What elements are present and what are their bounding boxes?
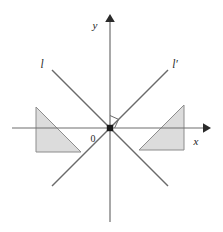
line-l-prime-label: l′ <box>172 58 178 70</box>
x-axis-arrowhead <box>203 123 211 133</box>
coordinate-plane-diagram: y x 0 l l′ <box>0 0 223 232</box>
origin-marker <box>107 125 113 131</box>
y-axis-label: y <box>92 19 98 31</box>
shaded-triangle-left <box>36 107 81 152</box>
line-l-label: l <box>40 58 43 70</box>
y-axis-arrowhead <box>105 14 115 22</box>
x-axis-label: x <box>193 135 199 147</box>
origin-label: 0 <box>91 133 96 144</box>
geometry-figure-canvas: y x 0 l l′ <box>0 0 223 232</box>
